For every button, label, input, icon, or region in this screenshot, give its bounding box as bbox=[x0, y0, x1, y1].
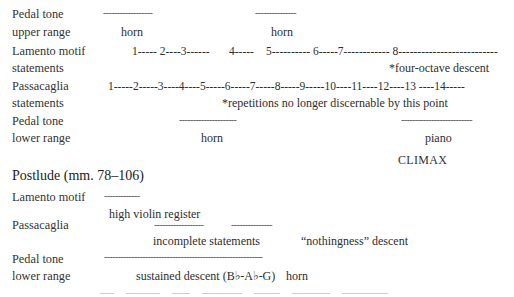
pedal-upper-label-2: upper range bbox=[12, 25, 70, 39]
postlude-pedal-label-2: lower range bbox=[12, 269, 70, 283]
postlude-passacaglia-note-a: incomplete statements bbox=[153, 234, 260, 248]
clipped-caption bbox=[100, 293, 420, 297]
climax-marker: CLIMAX bbox=[398, 153, 447, 167]
pedal-lower-label-1: Pedal tone bbox=[12, 114, 64, 128]
passacaglia-label-2: statements bbox=[12, 96, 64, 110]
pedal-lower-note-a: horn bbox=[201, 131, 223, 145]
postlude-passacaglia-label: Passacaglia bbox=[12, 218, 69, 232]
postlude-passacaglia-dashes-a: ------------------ bbox=[154, 218, 203, 232]
pedal-upper-dashes-a: ------------------ bbox=[103, 6, 152, 20]
pedal-lower-label-2: lower range bbox=[12, 131, 70, 145]
postlude-pedal-dashes: ----------------------------------------… bbox=[104, 250, 262, 264]
pedal-upper-label-1: Pedal tone bbox=[12, 7, 64, 21]
lamento-sequence-b: 4----- bbox=[229, 44, 254, 58]
passacaglia-note: *repetitions no longer discernable by th… bbox=[222, 96, 448, 110]
postlude-heading: Postlude (mm. 78–106) bbox=[12, 169, 144, 183]
pedal-lower-dashes-a: --------------------- bbox=[179, 113, 236, 127]
postlude-lamento-label: Lamento motif bbox=[12, 190, 85, 204]
passacaglia-sequence: 1-----2-----3----4----5-----6-----7-----… bbox=[108, 79, 465, 93]
postlude-pedal-label-1: Pedal tone bbox=[12, 252, 64, 266]
pedal-lower-dashes-b: -------------------------- bbox=[401, 113, 472, 127]
postlude-pedal-note-b: horn bbox=[286, 269, 308, 283]
postlude-passacaglia-dashes-b: --------------- bbox=[231, 218, 272, 232]
lamento-label-1: Lamento motif bbox=[12, 44, 85, 58]
pedal-upper-dashes-b: --------------- bbox=[255, 6, 296, 20]
lamento-note: *four-octave descent bbox=[389, 61, 489, 75]
postlude-passacaglia-note-b: “nothingness” descent bbox=[301, 234, 408, 248]
passacaglia-label-1: Passacaglia bbox=[12, 79, 69, 93]
lamento-sequence-a: 1----- 2----3------ bbox=[132, 44, 210, 58]
postlude-lamento-dashes: ------------- bbox=[104, 189, 140, 203]
pedal-lower-note-b: piano bbox=[425, 131, 452, 145]
lamento-sequence-c: 5---------- 6-----7------------ 8-------… bbox=[266, 44, 498, 58]
pedal-upper-note-a: horn bbox=[121, 25, 143, 39]
postlude-pedal-note-a: sustained descent (B♭-A♭-G) bbox=[136, 269, 275, 283]
lamento-label-2: statements bbox=[12, 61, 64, 75]
pedal-upper-note-b: horn bbox=[271, 25, 293, 39]
